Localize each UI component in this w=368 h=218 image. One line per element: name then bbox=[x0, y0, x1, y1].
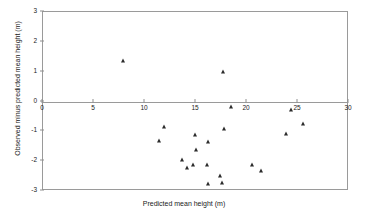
x-axis-tick-label: 25 bbox=[293, 104, 300, 112]
x-axis-tick-label: 30 bbox=[344, 104, 351, 112]
x-axis-title: Predicted mean height (m) bbox=[0, 200, 368, 207]
y-axis-tick-label: -3 bbox=[18, 186, 37, 194]
y-axis-tick bbox=[40, 130, 44, 131]
y-axis-tick-label: 0 bbox=[18, 97, 37, 105]
data-point-marker bbox=[185, 165, 189, 169]
data-point-marker bbox=[289, 107, 293, 111]
data-point-marker bbox=[157, 138, 161, 142]
data-point-marker bbox=[259, 169, 263, 173]
y-axis-title: Observed minus predicted mean height (m) bbox=[14, 9, 21, 169]
data-point-marker bbox=[194, 148, 198, 152]
data-point-marker bbox=[121, 58, 125, 62]
data-point-marker bbox=[218, 174, 222, 178]
y-axis-tick bbox=[40, 11, 44, 12]
y-axis-tick bbox=[40, 160, 44, 161]
data-point-marker bbox=[250, 162, 254, 166]
y-axis-tick-label: -1 bbox=[18, 126, 37, 134]
y-axis-tick-label: 3 bbox=[18, 7, 37, 15]
x-axis-tick bbox=[195, 99, 196, 103]
data-point-marker bbox=[206, 181, 210, 185]
y-axis-tick bbox=[40, 70, 44, 71]
data-point-marker bbox=[191, 163, 195, 167]
x-axis-tick bbox=[93, 99, 94, 103]
data-point-marker bbox=[301, 122, 305, 126]
data-point-marker bbox=[162, 124, 166, 128]
data-point-marker bbox=[220, 181, 224, 185]
data-point-marker bbox=[284, 132, 288, 136]
y-axis-tick bbox=[40, 40, 44, 41]
data-point-marker bbox=[180, 157, 184, 161]
x-axis-tick bbox=[246, 99, 247, 103]
x-axis-tick-label: 10 bbox=[140, 104, 147, 112]
y-axis-tick-label: -2 bbox=[18, 156, 37, 164]
data-point-marker bbox=[193, 133, 197, 137]
x-axis-tick-label: 20 bbox=[242, 104, 249, 112]
data-point-marker bbox=[221, 69, 225, 73]
scatter-chart-figure: 051015202530 -3-2-10123 Predicted mean h… bbox=[0, 0, 368, 218]
y-axis-tick bbox=[40, 100, 44, 101]
x-axis-tick bbox=[144, 99, 145, 103]
data-point-marker bbox=[206, 140, 210, 144]
y-axis-tick-label: 1 bbox=[18, 67, 37, 75]
y-axis-tick-label: 2 bbox=[18, 37, 37, 45]
x-axis-tick-label: 15 bbox=[191, 104, 198, 112]
x-axis-tick bbox=[348, 99, 349, 103]
data-point-marker bbox=[229, 105, 233, 109]
data-point-marker bbox=[222, 127, 226, 131]
x-axis-tick bbox=[297, 99, 298, 103]
x-axis-tick-label: 0 bbox=[40, 104, 44, 112]
data-point-marker bbox=[205, 162, 209, 166]
x-axis-tick-label: 5 bbox=[91, 104, 95, 112]
y-axis-tick bbox=[40, 190, 44, 191]
